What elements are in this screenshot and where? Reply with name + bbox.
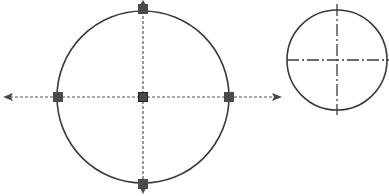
resize-handle-top[interactable] <box>138 4 148 14</box>
resize-handle-right[interactable] <box>224 92 234 102</box>
resize-handle-left[interactable] <box>53 92 63 102</box>
circle-scaling-diagram <box>0 0 389 196</box>
top-handle-arrow-icon <box>140 0 146 5</box>
small-circle-group <box>287 4 389 115</box>
bottom-handle-arrow-icon <box>140 188 146 194</box>
resize-handle-center[interactable] <box>139 93 148 102</box>
large-circle-group <box>5 0 280 194</box>
resize-handle-bottom[interactable] <box>138 179 148 189</box>
